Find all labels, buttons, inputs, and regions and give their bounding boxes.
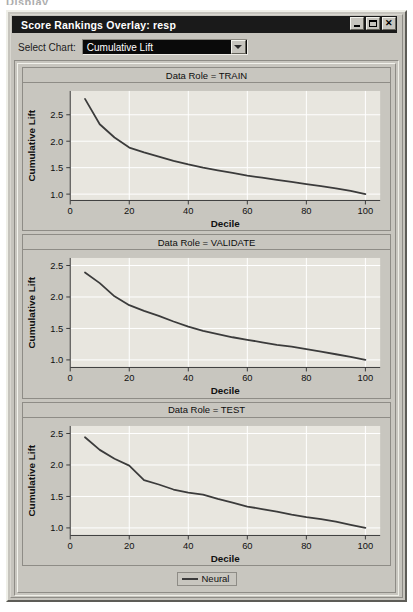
legend-entry-neural[interactable]: Neural [177, 572, 237, 586]
svg-text:20: 20 [124, 205, 134, 216]
svg-text:2.0: 2.0 [50, 459, 63, 470]
toolbar: Select Chart: Cumulative Lift [14, 37, 399, 57]
svg-text:80: 80 [301, 373, 311, 384]
chart-svg-train: 1.01.52.02.5020406080100DecileCumulative… [23, 83, 390, 230]
svg-text:100: 100 [358, 373, 374, 384]
chart-plot-train[interactable]: 1.01.52.02.5020406080100DecileCumulative… [23, 83, 390, 230]
close-icon[interactable]: ✕ [382, 17, 396, 30]
background-text: Display [6, 0, 49, 5]
svg-text:40: 40 [183, 373, 193, 384]
svg-text:20: 20 [124, 373, 134, 384]
chart-panel-validate: Data Role = VALIDATE 1.01.52.02.50204060… [22, 234, 391, 398]
screenshot-root: Display Score Rankings Overlay: resp ✕ S… [0, 0, 413, 612]
chart-title-train: Data Role = TRAIN [23, 68, 390, 83]
svg-text:2.5: 2.5 [50, 260, 63, 271]
svg-text:Decile: Decile [211, 553, 240, 564]
select-chart-dropdown[interactable]: Cumulative Lift [82, 39, 248, 55]
chart-svg-test: 1.01.52.02.5020406080100DecileCumulative… [23, 418, 390, 565]
select-chart-label: Select Chart: [18, 42, 76, 53]
charts-inner: Data Role = TRAIN 1.01.52.02.50204060801… [17, 63, 396, 593]
svg-text:Cumulative Lift: Cumulative Lift [26, 109, 37, 181]
chart-panel-train: Data Role = TRAIN 1.01.52.02.50204060801… [22, 67, 391, 231]
svg-text:Cumulative Lift: Cumulative Lift [26, 276, 37, 348]
svg-text:0: 0 [68, 205, 73, 216]
svg-text:2.0: 2.0 [50, 292, 63, 303]
svg-text:2.5: 2.5 [50, 428, 63, 439]
svg-text:80: 80 [301, 205, 311, 216]
svg-text:1.0: 1.0 [50, 355, 63, 366]
svg-text:40: 40 [183, 540, 193, 551]
svg-text:2.5: 2.5 [50, 109, 63, 120]
charts-container: Data Role = TRAIN 1.01.52.02.50204060801… [14, 60, 399, 596]
svg-text:60: 60 [242, 373, 252, 384]
svg-text:80: 80 [301, 540, 311, 551]
chevron-down-icon[interactable] [231, 40, 246, 54]
svg-text:1.0: 1.0 [50, 522, 63, 533]
svg-text:1.5: 1.5 [50, 162, 63, 173]
svg-text:2.0: 2.0 [50, 136, 63, 147]
legend-label: Neural [202, 573, 230, 584]
chart-panel-test: Data Role = TEST 1.01.52.02.502040608010… [22, 402, 391, 566]
svg-text:60: 60 [242, 540, 252, 551]
svg-text:0: 0 [68, 540, 73, 551]
chart-legend: Neural [22, 569, 391, 589]
svg-text:Cumulative Lift: Cumulative Lift [26, 444, 37, 516]
chart-title-test: Data Role = TEST [23, 403, 390, 418]
minimize-icon[interactable] [350, 17, 364, 30]
chart-plot-validate[interactable]: 1.01.52.02.5020406080100DecileCumulative… [23, 250, 390, 397]
window-controls: ✕ [350, 17, 396, 30]
svg-text:Decile: Decile [211, 218, 240, 229]
svg-text:100: 100 [358, 205, 374, 216]
svg-text:100: 100 [358, 540, 374, 551]
chart-svg-validate: 1.01.52.02.5020406080100DecileCumulative… [23, 250, 390, 397]
chart-plot-test[interactable]: 1.01.52.02.5020406080100DecileCumulative… [23, 418, 390, 565]
legend-line-swatch-icon [182, 578, 198, 580]
svg-text:1.5: 1.5 [50, 491, 63, 502]
svg-text:1.0: 1.0 [50, 189, 63, 200]
svg-text:Decile: Decile [211, 386, 240, 397]
score-rankings-overlay-window: Score Rankings Overlay: resp ✕ Select Ch… [6, 10, 407, 602]
select-chart-value: Cumulative Lift [83, 42, 231, 53]
title-bar[interactable]: Score Rankings Overlay: resp ✕ [12, 16, 397, 33]
maximize-icon[interactable] [366, 17, 380, 30]
svg-text:60: 60 [242, 205, 252, 216]
svg-text:20: 20 [124, 540, 134, 551]
chart-title-validate: Data Role = VALIDATE [23, 235, 390, 250]
svg-text:1.5: 1.5 [50, 323, 63, 334]
svg-text:0: 0 [68, 373, 73, 384]
svg-text:40: 40 [183, 205, 193, 216]
window-title: Score Rankings Overlay: resp [12, 19, 176, 31]
